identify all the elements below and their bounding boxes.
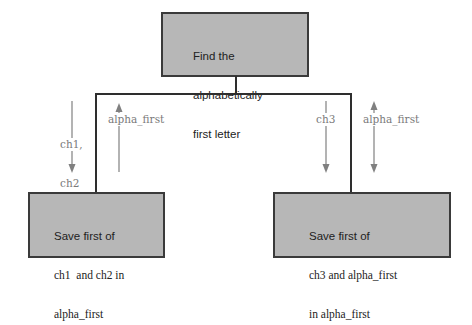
right-module-line-3: in alpha_first [309, 308, 397, 321]
label-ch1: ch1, [60, 138, 83, 151]
label-ch3: ch3 [316, 113, 335, 126]
arrow-bidirectional-icon [371, 101, 378, 173]
label-alpha-first-left: alpha_first [108, 113, 164, 126]
label-alpha-first-right: alpha_first [363, 113, 419, 126]
arrow-down-icon [323, 101, 330, 173]
label-ch1-ch2: ch1, ch2 [60, 112, 83, 203]
left-module-line-3: alpha_first [54, 308, 124, 321]
label-ch2: ch2 [60, 177, 83, 190]
